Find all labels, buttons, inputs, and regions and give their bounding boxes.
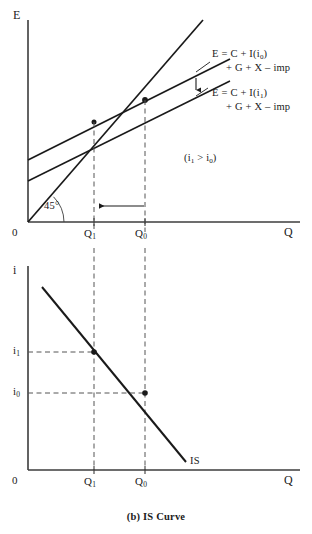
bottom-y-axis-label: i	[13, 264, 17, 277]
forty-five-degree-line	[28, 20, 203, 222]
expenditure-line-i0	[28, 59, 230, 160]
top-tick-label-q1: Q1	[84, 227, 96, 241]
bottom-tick-label-q1: Q1	[84, 475, 96, 489]
expenditure-line-i1	[28, 81, 230, 181]
equation-i0-line1-pre: E = C + I(i	[212, 48, 260, 59]
top-y-axis-label: E	[13, 9, 21, 22]
figure-caption: (b) IS Curve	[0, 511, 312, 523]
equation-i1-line1-post: )	[263, 87, 267, 98]
condition-post: )	[213, 152, 217, 163]
equation-i1-line2: + G + X – imp	[212, 100, 290, 113]
equation-i0-line1-post: )	[263, 48, 267, 59]
is-curve-label: IS	[190, 455, 200, 467]
condition-pre: (i	[184, 152, 191, 163]
bottom-tick-q1-sub: 1	[92, 480, 96, 489]
figure-canvas	[0, 0, 312, 534]
equation-label-i1: E = C + I(i1) + G + X – imp	[212, 86, 290, 114]
is-curve-figure: E Q 0 45° Q1 Q0 E = C + I(i0) + G + X – …	[0, 0, 312, 534]
is-point-q1-i1	[91, 349, 97, 355]
top-tick-q1-base: Q	[84, 227, 92, 239]
top-tick-label-q0: Q0	[135, 227, 147, 241]
equation-i0-line2: + G + X – imp	[212, 61, 290, 74]
equation-i0-line1: E = C + I(i0)	[212, 48, 267, 59]
is-curve-line	[42, 287, 186, 462]
forty-five-degree-label: 45°	[44, 200, 59, 212]
equation-label-i0: E = C + I(i0) + G + X – imp	[212, 47, 290, 75]
bottom-tick-label-q0: Q0	[135, 475, 147, 489]
top-x-axis-label: Q	[284, 226, 293, 239]
equation-i1-line1-pre: E = C + I(i	[212, 87, 260, 98]
bottom-tick-q1-base: Q	[84, 475, 92, 487]
bottom-tick-label-i1: i1	[13, 344, 20, 358]
bottom-tick-q0-sub: 0	[143, 480, 147, 489]
top-tick-q0-sub: 0	[143, 232, 147, 241]
bottom-tick-q0-base: Q	[135, 475, 143, 487]
interest-rate-condition-label: (i1 > i0)	[184, 152, 217, 165]
condition-mid: > i	[194, 152, 209, 163]
bottom-tick-i0-sub: 0	[16, 390, 20, 399]
equation-i1-line1: E = C + I(i1)	[212, 87, 267, 98]
bottom-tick-label-i0: i0	[13, 385, 20, 399]
panel-is-curve	[28, 248, 300, 474]
bottom-x-axis-label: Q	[284, 474, 293, 487]
is-point-q0-i0	[142, 390, 148, 396]
top-tick-q1-sub: 1	[92, 232, 96, 241]
top-origin-label: 0	[12, 226, 18, 238]
top-tick-q0-base: Q	[135, 227, 143, 239]
bottom-origin-label: 0	[12, 474, 18, 486]
bottom-tick-i1-sub: 1	[16, 349, 20, 358]
